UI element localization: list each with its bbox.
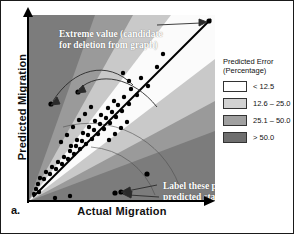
legend-label-under-12-5: < 12.5 <box>253 82 274 91</box>
legend-swatch-over-50 <box>223 132 247 143</box>
x-axis-title: Actual Migration <box>29 205 215 217</box>
figure-panel: Extreme value (candidate for deletion fr… <box>0 0 294 234</box>
point-outlier-low-a <box>144 171 149 176</box>
legend-item: > 50.0 <box>223 130 291 144</box>
point-outlier-low-c <box>112 190 117 195</box>
y-axis-title: Predicted Migration <box>16 32 28 182</box>
legend-label-25-1-50: 25.1 – 50.0 <box>253 116 291 125</box>
legend: Predicted Error (Percentage) < 12.5 12.6… <box>223 57 291 147</box>
y-axis-arrow-icon <box>23 7 33 17</box>
legend-swatch-under-12-5 <box>223 81 247 92</box>
point-extreme-value <box>206 18 211 23</box>
legend-label-over-50: > 50.0 <box>253 133 274 142</box>
legend-item: 12.6 – 25.0 <box>223 96 291 110</box>
legend-swatch-12-6-25 <box>223 98 247 109</box>
legend-item: 25.1 – 50.0 <box>223 113 291 127</box>
legend-swatch-25-1-50 <box>223 115 247 126</box>
legend-title: Predicted Error (Percentage) <box>223 57 291 75</box>
legend-item: < 12.5 <box>223 79 291 93</box>
annotation-extreme-value: Extreme value (candidate for deletion fr… <box>59 29 171 50</box>
legend-label-12-6-25: 12.6 – 25.0 <box>253 99 291 108</box>
scatter-plot-area: Extreme value (candidate for deletion fr… <box>29 15 215 201</box>
panel-label: a. <box>11 204 20 216</box>
x-axis-line <box>28 200 208 202</box>
